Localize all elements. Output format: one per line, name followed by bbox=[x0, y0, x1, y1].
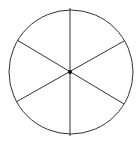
center-point bbox=[68, 70, 72, 74]
circle-diagram bbox=[0, 0, 137, 143]
